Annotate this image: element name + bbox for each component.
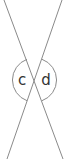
angle-label-c: c xyxy=(18,71,26,89)
angle-label-d: d xyxy=(41,71,51,89)
vertical-angles-diagram: c d xyxy=(0,0,70,159)
